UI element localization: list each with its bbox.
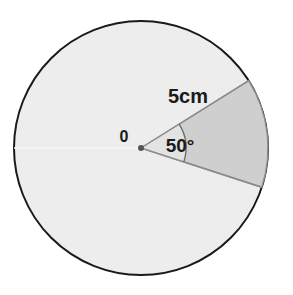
circle-sector-diagram: 5cm 50° 0 (0, 0, 293, 295)
center-label: 0 (120, 128, 129, 145)
angle-label: 50° (166, 135, 195, 156)
figure-container: 5cm 50° 0 (0, 0, 293, 295)
radius-label: 5cm (168, 85, 208, 107)
center-point (138, 145, 144, 151)
